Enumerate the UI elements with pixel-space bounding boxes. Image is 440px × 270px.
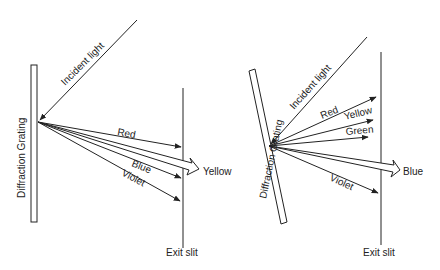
left-diagram: Diffraction Grating Incident light Exit … (16, 20, 232, 258)
left-grating (31, 65, 37, 222)
right-red-ray (269, 97, 376, 146)
left-blue-ray (38, 122, 181, 178)
right-incident-label: Incident light (287, 62, 333, 111)
left-incident-ray (40, 20, 137, 120)
left-red-label: Red (117, 126, 137, 140)
right-exit-label: Exit slit (363, 247, 395, 258)
left-yellow-label: Yellow (203, 166, 232, 177)
right-green-label: Green (345, 124, 374, 137)
right-diagram: Diffraction Grating Incident light Exit … (249, 37, 423, 258)
left-incident-label: Incident light (59, 40, 107, 88)
right-yellow-label: Yellow (343, 104, 374, 122)
diagram-svg: Diffraction Grating Incident light Exit … (0, 0, 440, 270)
left-exit-label: Exit slit (166, 247, 198, 258)
right-green-ray (269, 137, 368, 146)
right-violet-label: Violet (328, 172, 355, 193)
diffraction-diagram: Diffraction Grating Incident light Exit … (0, 0, 440, 270)
left-grating-label: Diffraction Grating (16, 118, 27, 198)
left-violet-ray (38, 122, 180, 201)
right-blue-label: Blue (403, 166, 423, 177)
right-violet-ray (269, 146, 378, 193)
